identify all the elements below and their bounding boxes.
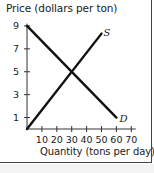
x-tick-label: 60: [110, 134, 122, 145]
x-tick-label: 20: [51, 134, 63, 145]
x-tick-label: 70: [125, 134, 137, 145]
x-tick-label: 40: [81, 134, 93, 145]
x-tick-label: 10: [36, 134, 48, 145]
y-tick-label: 3: [13, 89, 19, 100]
supply-demand-chart: 1357910203040506070SD: [0, 0, 154, 173]
demand-curve: [27, 26, 116, 118]
y-tick-label: 5: [13, 66, 19, 77]
supply-curve: [27, 34, 102, 129]
y-tick-label: 7: [13, 43, 19, 54]
y-tick-label: 1: [13, 112, 19, 123]
x-tick-label: 30: [66, 134, 78, 145]
demand-label: D: [118, 113, 127, 124]
supply-label: S: [104, 27, 111, 38]
y-tick-label: 9: [13, 20, 19, 31]
x-tick-label: 50: [95, 134, 107, 145]
